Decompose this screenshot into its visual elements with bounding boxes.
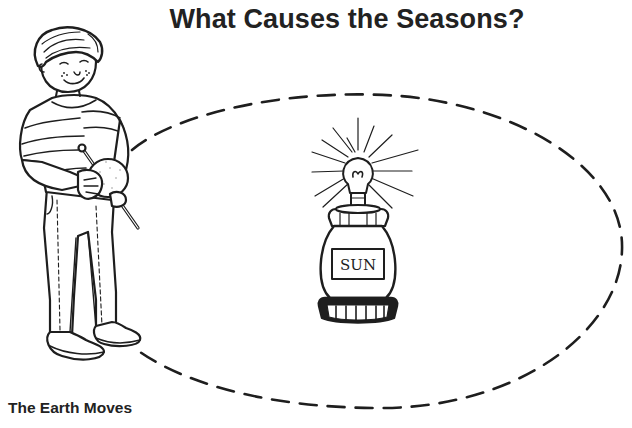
light-bulb-icon — [343, 158, 373, 207]
jar-base — [319, 298, 398, 323]
sun-model — [312, 118, 418, 323]
left-hand — [78, 170, 102, 199]
orbit-illustration: SUN — [0, 0, 632, 428]
boy-head — [35, 27, 102, 92]
jeans — [44, 188, 116, 336]
sun-label: SUN — [340, 256, 376, 274]
boy-figure — [20, 27, 140, 359]
jar-lid — [329, 205, 388, 226]
caption-text: The Earth Moves — [8, 399, 132, 417]
right-hand — [110, 192, 126, 207]
